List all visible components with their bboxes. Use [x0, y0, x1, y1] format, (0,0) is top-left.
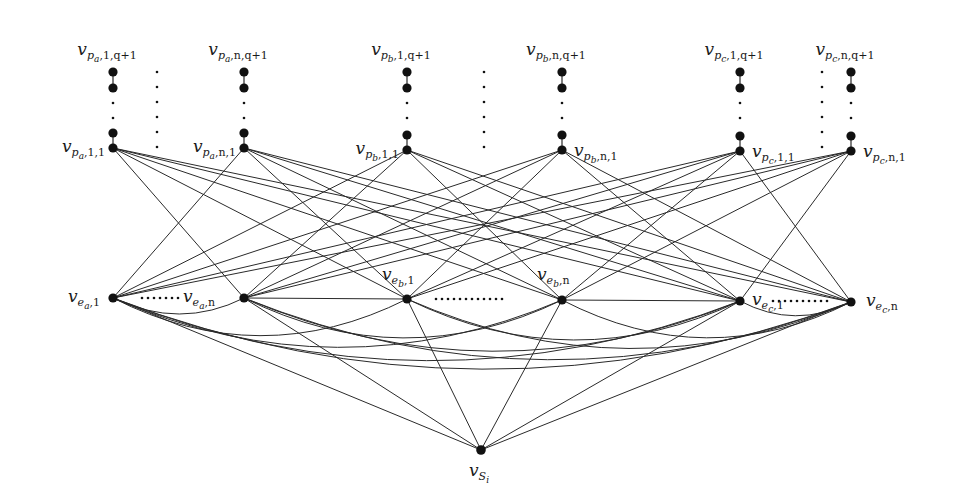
row-ellipsis-dot [177, 297, 180, 300]
edge-e-e [562, 300, 740, 301]
row-ellipsis-dot [796, 300, 799, 303]
row-ellipsis-dot [465, 298, 468, 301]
column-ellipsis-dot [821, 146, 824, 149]
column-ellipsis-dot [483, 146, 486, 149]
stack-ellipsis-dot [112, 102, 115, 105]
e-node-ec1 [735, 296, 744, 305]
row-ellipsis-dot [441, 298, 444, 301]
p-node-pcn-1 [846, 83, 855, 92]
column-ellipsis-dot [156, 101, 159, 104]
edge-e-e-arc [113, 298, 407, 336]
edge-e-e-arc [113, 298, 244, 314]
edge-p-e [113, 151, 851, 298]
column-ellipsis-dot [156, 86, 159, 89]
graph-diagram: vpa,1,q+1vpa,1,1vpa,n,q+1vpa,n,1vpb,1,q+… [0, 0, 965, 502]
column-ellipsis-dot [821, 101, 824, 104]
row-ellipsis-dot [141, 297, 144, 300]
p-node-pbn-1 [557, 83, 566, 92]
stack-ellipsis-dot [112, 117, 115, 120]
edge-e-e-arc [113, 298, 562, 347]
p-node-pc1-0 [735, 67, 744, 76]
p-node-pbn-0 [557, 67, 566, 76]
p-node-pc1-1 [735, 83, 744, 92]
p-node-pcn-2 [846, 131, 855, 140]
label-ebn: veb,n [537, 264, 569, 289]
row-ellipsis-dot [826, 300, 829, 303]
row-ellipsis-dot [477, 298, 480, 301]
column-ellipsis-dot [156, 131, 159, 134]
e-node-ea1 [108, 293, 117, 302]
stack-ellipsis-dot [739, 102, 742, 105]
p-node-pb1-1 [402, 83, 411, 92]
p-node-pb1-2 [402, 130, 411, 139]
row-ellipsis-dot [171, 297, 174, 300]
edge-e-e-arc [113, 298, 851, 369]
e-node-eb1 [402, 294, 411, 303]
column-ellipsis-dot [483, 86, 486, 89]
edge-e-s [407, 299, 481, 450]
row-ellipsis-dot [447, 298, 450, 301]
row-ellipsis-dot [159, 297, 162, 300]
p-node-pb1-0 [402, 67, 411, 76]
label-ea1: vea,1 [68, 286, 100, 311]
stack-ellipsis-dot [406, 102, 409, 105]
edge-e-s [244, 298, 481, 450]
row-ellipsis-dot [802, 300, 805, 303]
label-pan-bottom: vpa,n,1 [193, 136, 236, 161]
p-node-pa1-1 [108, 83, 117, 92]
row-ellipsis-dot [147, 297, 150, 300]
stack-ellipsis-dot [561, 117, 564, 120]
column-ellipsis-dot [821, 116, 824, 119]
e-node-ean [239, 293, 248, 302]
row-ellipsis-dot [784, 300, 787, 303]
label-ec1: vec,1 [752, 289, 784, 314]
label-ean: vea,n [183, 286, 215, 311]
label-pcn-top: vpc,n,q+1 [815, 39, 874, 64]
label-pbn-top: vpb,n,q+1 [526, 39, 586, 64]
edge-p-e [113, 151, 740, 298]
row-ellipsis-dot [165, 297, 168, 300]
edge-e-s [481, 301, 740, 450]
column-ellipsis-dot [156, 71, 159, 74]
label-pa1-top: vpa,1,q+1 [77, 39, 136, 64]
ellipsis-dots-layer [112, 71, 853, 303]
label-pbn-bottom: vpb,n,1 [574, 140, 618, 165]
label-source: vSi [469, 460, 489, 485]
source-node [476, 445, 486, 455]
label-eb1: veb,1 [382, 264, 414, 289]
column-ellipsis-dot [821, 71, 824, 74]
row-ellipsis-dot [459, 298, 462, 301]
p-node-pcn-3 [846, 146, 855, 155]
column-ellipsis-dot [483, 131, 486, 134]
p-node-pan-0 [239, 67, 248, 76]
p-node-pa1-3 [108, 143, 117, 152]
p-node-pcn-0 [846, 67, 855, 76]
p-node-pc1-2 [735, 131, 744, 140]
p-node-pa1-0 [108, 67, 117, 76]
row-ellipsis-dot [483, 298, 486, 301]
stack-ellipsis-dot [561, 102, 564, 105]
row-ellipsis-dot [471, 298, 474, 301]
p-node-pan-2 [239, 128, 248, 137]
label-pcn-bottom: vpc,n,1 [863, 141, 906, 166]
row-ellipsis-dot [489, 298, 492, 301]
label-pc1-bottom: vpc,1,1 [752, 141, 795, 166]
label-pb1-top: vpb,1,q+1 [371, 39, 431, 64]
p-node-pc1-3 [735, 146, 744, 155]
row-ellipsis-dot [495, 298, 498, 301]
label-ecn: vec,n [866, 290, 898, 315]
row-ellipsis-dot [808, 300, 811, 303]
column-ellipsis-dot [483, 101, 486, 104]
column-ellipsis-dot [156, 146, 159, 149]
e-node-ecn [846, 297, 855, 306]
p-node-pb1-3 [402, 145, 411, 154]
row-ellipsis-dot [790, 300, 793, 303]
p-node-pa1-2 [108, 128, 117, 137]
p-node-pbn-2 [557, 130, 566, 139]
stack-ellipsis-dot [243, 117, 246, 120]
edge-p-e [562, 151, 740, 300]
row-ellipsis-dot [453, 298, 456, 301]
stack-ellipsis-dot [406, 117, 409, 120]
labels-layer: vpa,1,q+1vpa,1,1vpa,n,q+1vpa,n,1vpb,1,q+… [62, 39, 906, 485]
e-node-ebn [557, 295, 566, 304]
